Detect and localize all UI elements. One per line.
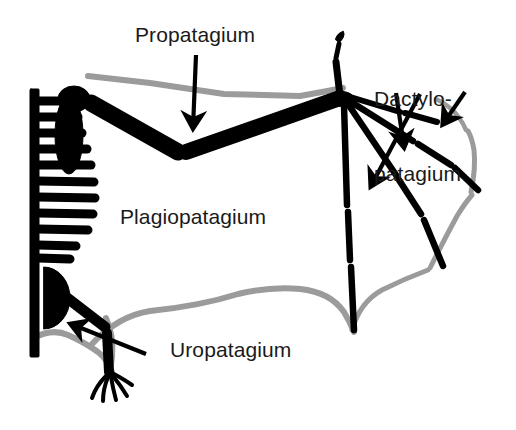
radius-ulna [186, 98, 340, 152]
arrow-propatagium [193, 55, 196, 128]
label-propatagium: Propatagium [135, 22, 255, 47]
label-uropatagium: Uropatagium [170, 337, 291, 362]
rib [38, 245, 76, 246]
label-dactylopatagium-line1: Dactylo- [374, 86, 461, 111]
humerus [91, 103, 178, 152]
dactylopatagium-scallop-5-4 [352, 270, 428, 330]
label-dactylopatagium-line2: patagium [374, 161, 461, 186]
digit-1-phalanx [336, 44, 339, 58]
rib [38, 229, 88, 230]
rib [38, 181, 94, 182]
digit-5-seg2 [348, 212, 350, 260]
digit-1-thumb [336, 62, 340, 96]
rib [38, 197, 95, 198]
propatagium-edge [88, 76, 343, 96]
bat-anatomy-figure: Propatagium Dactylo- patagium Plagiopata… [0, 0, 516, 430]
foot-toes [92, 374, 132, 401]
digit-5 [344, 105, 354, 330]
plagiopatagium-trailing-edge [92, 288, 354, 344]
digit-5-seg1 [344, 105, 347, 205]
rib [38, 258, 70, 259]
digit-5-seg3 [351, 267, 354, 330]
digit-1-claw [336, 32, 344, 42]
label-dactylopatagium: Dactylo- patagium [374, 36, 461, 236]
label-plagiopatagium: Plagiopatagium [120, 204, 266, 229]
rib [38, 213, 93, 214]
